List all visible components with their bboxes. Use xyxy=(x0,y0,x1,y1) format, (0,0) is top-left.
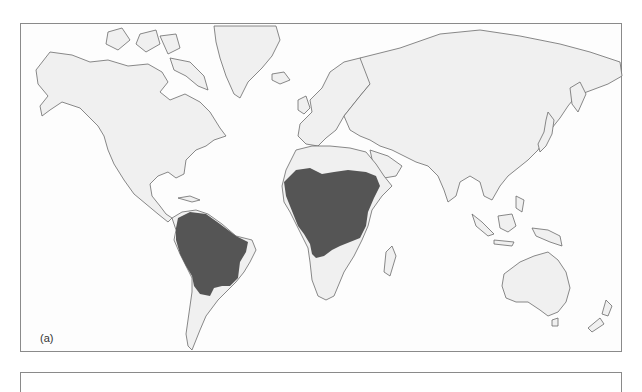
highlight-south-america xyxy=(176,212,248,296)
cuba xyxy=(178,196,200,202)
new-zealand-south xyxy=(588,318,604,332)
tasmania xyxy=(552,318,558,326)
arctic-island xyxy=(160,34,180,54)
madagascar xyxy=(384,246,396,276)
highlight-africa xyxy=(284,168,380,258)
greenland xyxy=(214,26,280,98)
philippines xyxy=(516,196,524,212)
australia xyxy=(502,252,570,316)
borneo xyxy=(498,214,516,232)
sumatra xyxy=(472,214,494,236)
iceland xyxy=(272,72,290,84)
arctic-island xyxy=(106,28,130,50)
baffin-island xyxy=(170,58,208,90)
panel-label: (a) xyxy=(40,332,53,344)
new-guinea xyxy=(532,228,562,246)
java xyxy=(494,240,514,246)
arctic-island xyxy=(136,30,160,52)
british-isles xyxy=(298,96,310,114)
new-zealand-north xyxy=(602,300,612,316)
